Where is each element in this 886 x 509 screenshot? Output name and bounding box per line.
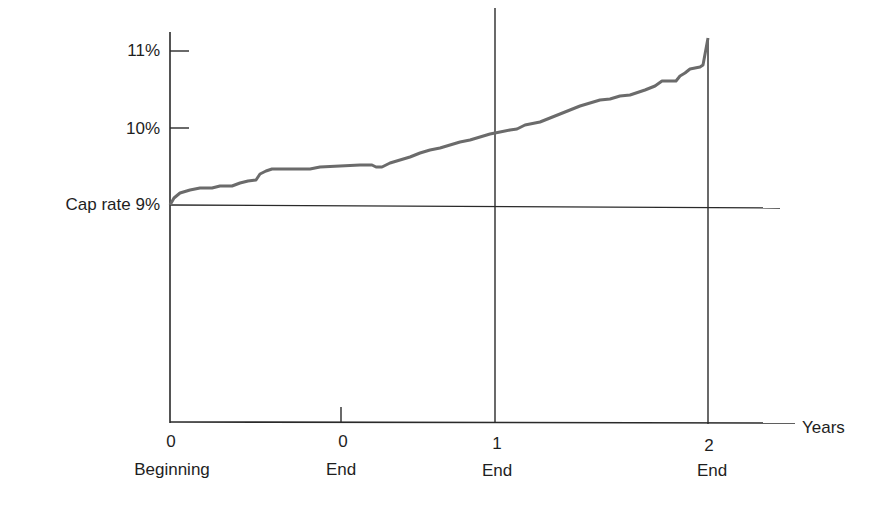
x-tick-label-sub: End [326,461,356,478]
x-tick-label-sub: End [482,462,512,479]
x-tick-label-num: 0 [166,433,175,450]
y-label-cap-rate: Cap rate 9% [0,196,160,213]
x-tick-label-num: 2 [704,437,713,454]
x-tick-label-num: 1 [492,435,501,452]
x-axis [170,422,795,423]
x-axis-title: Years [802,419,845,436]
cap-rate-chart [0,0,886,509]
y-label-10: 10% [0,120,160,137]
x-tick-label-num: 0 [338,433,347,450]
x-tick-label-sub: End [697,462,727,479]
cap-rate-curve [170,38,708,205]
y-label-11: 11% [0,42,160,59]
x-tick-label-sub: Beginning [134,461,210,478]
cap-rate-line [170,205,780,208]
